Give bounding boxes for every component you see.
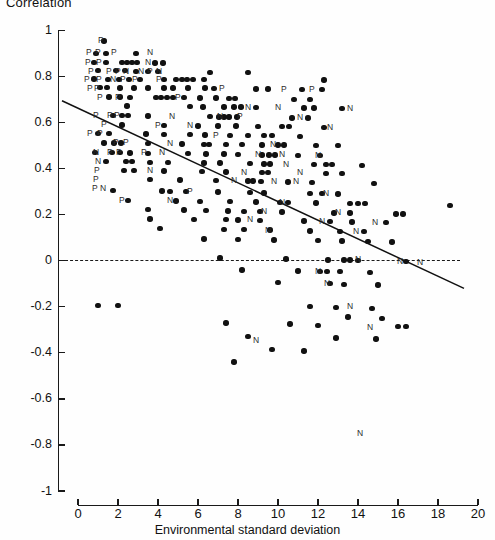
data-point	[126, 77, 131, 82]
data-point	[235, 217, 240, 222]
point-label-n: N	[353, 227, 359, 236]
data-point	[279, 124, 284, 129]
point-label-n: N	[247, 215, 253, 224]
point-label-p: P	[175, 93, 181, 102]
y-tick-mark	[59, 122, 65, 123]
data-point	[131, 85, 136, 90]
data-point	[365, 239, 370, 244]
data-point	[307, 228, 312, 233]
y-tick-label: -0.8	[4, 438, 52, 451]
y-tick-mark	[59, 352, 65, 353]
point-label-n: N	[217, 112, 223, 121]
point-label-n: N	[138, 67, 144, 76]
point-label-n: N	[372, 218, 378, 227]
data-point	[253, 86, 258, 91]
data-point	[329, 162, 334, 167]
data-point	[231, 104, 236, 109]
point-label-n: N	[241, 168, 247, 177]
data-point	[226, 114, 231, 119]
point-label-n: N	[327, 123, 333, 132]
x-tick-label: 12	[303, 507, 333, 520]
y-tick-mark	[59, 444, 65, 445]
x-tick-label: 14	[343, 507, 373, 520]
data-point	[295, 153, 300, 158]
x-tick-label: 18	[423, 507, 453, 520]
data-point	[245, 133, 250, 138]
y-tick-label: 0.6	[4, 116, 52, 129]
data-point	[203, 208, 208, 213]
point-label-n: N	[397, 257, 403, 266]
data-point	[301, 348, 306, 353]
data-point	[267, 161, 272, 166]
data-point	[311, 105, 316, 110]
data-point	[215, 123, 220, 128]
data-point	[272, 152, 277, 157]
data-point	[211, 86, 216, 91]
x-tick-label: 2	[103, 507, 133, 520]
data-point	[185, 85, 190, 90]
x-tick-label: 10	[263, 507, 293, 520]
data-point	[181, 207, 186, 212]
point-label-n: N	[147, 166, 153, 175]
data-point	[238, 104, 243, 109]
data-point	[333, 335, 338, 340]
point-label-p: P	[115, 93, 121, 102]
data-point	[145, 141, 150, 146]
point-label-p: P	[237, 112, 243, 121]
data-point	[187, 104, 192, 109]
point-label-n: N	[145, 58, 151, 67]
point-label-n: N	[110, 75, 116, 84]
data-point	[269, 133, 274, 138]
data-point	[202, 132, 207, 137]
data-point	[239, 142, 244, 147]
data-point	[184, 77, 189, 82]
point-label-n: N	[347, 302, 353, 311]
point-label-n: N	[95, 157, 101, 166]
data-point	[101, 140, 106, 145]
data-point	[161, 85, 166, 90]
data-point	[299, 87, 304, 92]
data-point	[383, 220, 388, 225]
data-point	[213, 178, 218, 183]
point-label-n: N	[167, 139, 173, 148]
data-point	[167, 189, 172, 194]
data-point	[297, 134, 302, 139]
x-tick-label: 6	[183, 507, 213, 520]
x-tick-mark	[197, 499, 198, 505]
data-point	[447, 203, 452, 208]
data-point	[145, 85, 150, 90]
point-label-p: P	[113, 138, 119, 147]
x-tick-mark	[437, 499, 438, 505]
data-point	[200, 104, 205, 109]
data-point	[207, 70, 212, 75]
data-point	[143, 131, 148, 136]
x-tick-mark	[117, 499, 118, 505]
data-point	[259, 170, 264, 175]
data-point	[371, 181, 376, 186]
y-tick-label: -0.4	[4, 346, 52, 359]
regression-line	[0, 0, 495, 540]
data-point	[115, 303, 120, 308]
y-tick-mark	[59, 490, 65, 491]
data-point	[275, 280, 280, 285]
data-point	[247, 161, 252, 166]
data-point	[119, 122, 124, 127]
data-point	[133, 51, 138, 56]
data-point	[95, 68, 100, 73]
data-point	[227, 133, 232, 138]
y-tick-label: -1	[4, 485, 52, 498]
point-label-n: N	[167, 196, 173, 205]
data-point	[258, 179, 263, 184]
data-point	[335, 143, 340, 148]
data-point	[369, 306, 374, 311]
point-label-n: N	[324, 279, 330, 288]
point-label-p: P	[213, 131, 219, 140]
data-point	[347, 210, 352, 215]
data-point	[321, 77, 326, 82]
data-point	[283, 256, 288, 261]
data-point	[245, 334, 250, 339]
y-tick-mark	[59, 214, 65, 215]
data-point	[201, 236, 206, 241]
data-point	[315, 238, 320, 243]
data-point	[227, 199, 232, 204]
